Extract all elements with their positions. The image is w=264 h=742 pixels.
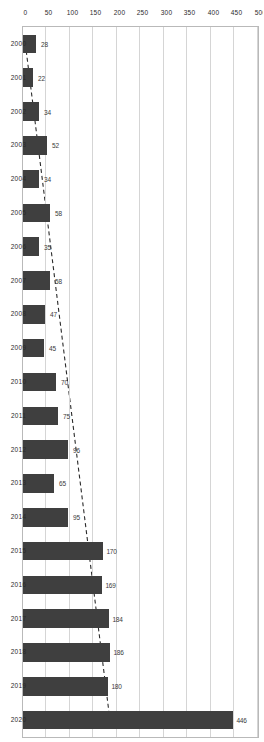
category-tick-label: 2020 [8,716,30,723]
bar-value-label: 65 [52,480,72,487]
bar-value-label: 96 [67,446,87,453]
bar-value-label: 446 [231,717,251,724]
gridline [257,27,258,737]
category-tick-label: 2009 [8,344,30,351]
category-tick-label: 2012 [8,445,30,452]
category-tick-label: 2018 [8,648,30,655]
bar [23,576,102,595]
category-tick-label: 2013 [8,479,30,486]
bar-value-label: 186 [109,649,129,656]
category-tick-label: 2001 [8,73,30,80]
value-tick-label: 400 [202,9,226,16]
gridline [187,27,188,737]
category-tick-label: 2007 [8,276,30,283]
bar-value-label: 47 [44,311,64,318]
gridline [140,27,141,737]
bar-value-label: 70 [54,379,74,386]
category-tick-label: 2015 [8,547,30,554]
category-tick-label: 2003 [8,141,30,148]
gridline [116,27,117,737]
bar [23,508,68,527]
category-tick-label: 2019 [8,682,30,689]
bar-value-label: 75 [57,412,77,419]
rotated-chart-wrapper: 2822345234583558474570759665951701691841… [0,0,263,742]
bar-value-label: 28 [35,40,55,47]
category-tick-label: 2017 [8,614,30,621]
bar-value-label: 58 [49,277,69,284]
bar-value-label: 52 [46,142,66,149]
value-tick-label: 100 [61,9,85,16]
chart-area: 2822345234583558474570759665951701691841… [0,0,263,742]
category-tick-label: 2006 [8,242,30,249]
bar-value-label: 58 [49,209,69,216]
category-tick-label: 2005 [8,208,30,215]
value-tick-label: 200 [108,9,132,16]
category-tick-label: 2002 [8,107,30,114]
category-tick-label: 2014 [8,513,30,520]
bar [23,711,233,730]
category-tick-label: 2008 [8,310,30,317]
bar-value-label: 184 [108,615,128,622]
plot-region: 2822345234583558474570759665951701691841… [22,26,259,738]
bar [23,677,108,696]
gridline [163,27,164,737]
bar-value-label: 45 [43,345,63,352]
value-tick-label: 350 [178,9,202,16]
category-tick-label: 2016 [8,580,30,587]
value-tick-label: 300 [155,9,179,16]
bar-value-label: 34 [37,176,57,183]
bar [23,542,103,561]
bar-value-label: 34 [37,108,57,115]
value-tick-label: 450 [225,9,249,16]
value-tick-label: 250 [131,9,155,16]
bar-value-label: 22 [32,74,52,81]
bar-value-label: 169 [101,581,121,588]
category-tick-label: 2010 [8,378,30,385]
bar-value-label: 180 [106,683,126,690]
gridline [93,27,94,737]
gridline [210,27,211,737]
bar-value-label: 35 [38,243,58,250]
bar-value-label: 95 [66,514,86,521]
bar [23,440,68,459]
value-tick-label: 50 [37,9,61,16]
bar [23,609,109,628]
value-tick-label: 150 [84,9,108,16]
gridline [234,27,235,737]
bar-value-label: 170 [101,548,121,555]
category-tick-label: 2000 [8,39,30,46]
bar [23,643,110,662]
category-tick-label: 2011 [8,411,30,418]
category-tick-label: 2004 [8,175,30,182]
value-tick-label: 500 [249,9,264,16]
value-tick-label: 0 [14,9,38,16]
